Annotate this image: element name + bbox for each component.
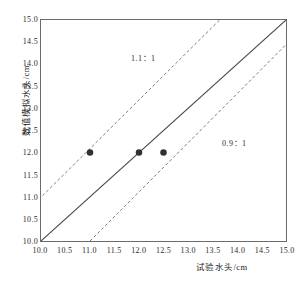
data-point (136, 149, 143, 156)
y-tick-label: 12.0 (0, 149, 38, 157)
y-tick-label: 10.0 (0, 238, 38, 246)
y-axis-title: 数值模拟水头/cm (22, 49, 31, 153)
y-tick-label: 14.0 (0, 60, 38, 68)
figure-container: 15.0 14.5 14.0 13.5 13.0 12.5 12.0 11.5 … (0, 0, 303, 285)
lower-bound-line (90, 0, 303, 241)
y-tick-label: 12.5 (0, 127, 38, 135)
y-tick-label: 10.5 (0, 216, 38, 224)
data-point (160, 149, 167, 156)
y-tick-label: 13.5 (0, 83, 38, 91)
plot-graphics (41, 20, 286, 241)
y-tick-label: 11.0 (0, 194, 38, 202)
y-tick-label: 14.5 (0, 38, 38, 46)
x-axis-tick-labels: 10.0 10.5 11.0 11.5 12.0 12.5 13.0 13.5 … (0, 247, 303, 261)
x-tick-label: 15.0 (267, 247, 303, 255)
y-tick-label: 15.0 (0, 16, 38, 24)
identity-line (41, 20, 286, 241)
y-axis-tick-labels: 15.0 14.5 14.0 13.5 13.0 12.5 12.0 11.5 … (0, 0, 38, 285)
data-point (87, 149, 94, 156)
upper-bound-label: 1.1：1 (131, 55, 156, 63)
y-tick-label: 13.0 (0, 105, 38, 113)
plot-area (40, 19, 287, 242)
lower-bound-label: 0.9：1 (222, 140, 247, 148)
x-axis-title: 试验水头/cm (196, 263, 248, 272)
y-tick-label: 11.5 (0, 172, 38, 180)
